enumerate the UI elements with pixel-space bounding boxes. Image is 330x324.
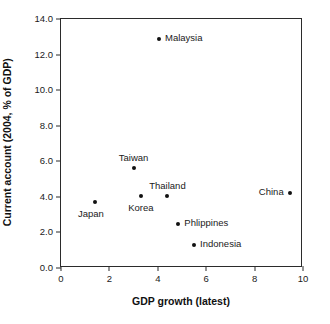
x-axis-tick-mark [254,266,255,271]
data-point-marker[interactable] [288,191,292,195]
y-axis-tick-mark [56,54,61,55]
data-point-label: Japan [78,209,104,219]
x-axis-title: GDP growth (latest) [60,296,302,307]
y-axis-tick-label: 0.0 [40,263,53,273]
data-point-label: Korea [128,203,153,213]
y-axis-title-text: Current account (2004, % of GDP) [2,58,13,226]
y-axis-tick-label: 2.0 [40,228,53,238]
x-axis-tick-mark [109,266,110,271]
x-axis-tick-mark [61,266,62,271]
scatter-chart-figure: 0.02.04.06.08.010.012.014.0 0246810 Japa… [0,0,330,324]
y-axis-tick-mark [56,19,61,20]
y-axis-tick-mark [56,161,61,162]
data-point-marker[interactable] [157,37,161,41]
x-axis-tick-label: 10 [298,274,309,284]
data-point-marker[interactable] [176,222,180,226]
data-point-label: Indonesia [200,239,241,249]
y-axis-title: Current account (2004, % of GDP) [0,18,14,267]
y-axis-tick-mark [56,196,61,197]
x-axis-tick-label: 6 [204,274,209,284]
x-axis-tick-mark [206,266,207,271]
data-point-label: Taiwan [119,153,149,163]
x-axis-tick-mark [157,266,158,271]
y-axis-tick-label: 8.0 [40,121,53,131]
y-axis-tick-mark [56,90,61,91]
x-axis-tick-label: 8 [252,274,257,284]
data-point-marker[interactable] [139,194,143,198]
y-axis-tick-mark [56,125,61,126]
x-axis-tick-label: 0 [58,274,63,284]
x-axis-tick-label: 2 [107,274,112,284]
y-axis-tick-label: 10.0 [35,85,54,95]
y-axis-tick-label: 6.0 [40,157,53,167]
data-point-label: Thailand [149,180,185,190]
plot-area: 0.02.04.06.08.010.012.014.0 0246810 Japa… [60,18,302,267]
y-axis-tick-label: 12.0 [35,50,54,60]
y-axis-tick-label: 14.0 [35,14,54,24]
data-point-marker[interactable] [93,200,97,204]
x-axis-tick-label: 4 [155,274,160,284]
data-point-marker[interactable] [192,243,196,247]
x-axis-tick-mark [303,266,304,271]
data-point-marker[interactable] [165,194,169,198]
data-point-label: Phlippines [184,219,228,229]
data-point-label: Malaysia [165,34,203,44]
data-point-label: China [259,188,284,198]
data-point-marker[interactable] [132,166,136,170]
y-axis-tick-label: 4.0 [40,192,53,202]
y-axis-tick-mark [56,232,61,233]
